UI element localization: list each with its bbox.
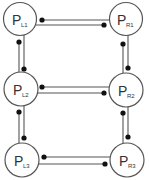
node-p-r1: P R1 xyxy=(110,3,143,36)
node-p-l2: P L2 xyxy=(4,72,38,106)
node-p-r3: P R3 xyxy=(110,143,144,177)
connector-dot xyxy=(125,65,130,70)
node-subscript: R1 xyxy=(126,22,134,28)
link-l1-r1 xyxy=(36,17,110,27)
link-r2-r3 xyxy=(120,107,130,144)
node-subscript: L1 xyxy=(21,22,28,28)
connector-dot xyxy=(101,22,106,27)
connector-dot xyxy=(16,39,21,44)
connector-dot xyxy=(125,134,130,139)
node-p-r2: P R2 xyxy=(109,73,143,107)
node-subscript: L3 xyxy=(23,163,30,169)
connector-dot xyxy=(101,90,106,95)
connector-dot xyxy=(39,17,44,22)
connector-dot xyxy=(102,161,107,166)
link-l3-r3 xyxy=(38,154,111,166)
connector-dot xyxy=(120,41,125,46)
node-label: P xyxy=(117,12,126,28)
process-pair-diagram: P L1 P R1 P L2 P R2 P L3 P R3 xyxy=(0,0,149,180)
node-subscript: R2 xyxy=(127,93,135,99)
link-r1-r2 xyxy=(120,35,130,74)
node-p-l3: P L3 xyxy=(5,143,39,177)
node-label: P xyxy=(12,12,21,28)
node-label: P xyxy=(119,153,128,169)
connector-dot xyxy=(21,66,26,71)
connector-dot xyxy=(39,84,44,89)
node-p-l1: P L1 xyxy=(4,3,37,36)
connector-dot xyxy=(41,154,46,159)
link-l2-r2 xyxy=(37,84,110,95)
link-l2-l3 xyxy=(16,106,26,144)
connector-dot xyxy=(16,109,21,114)
node-label: P xyxy=(14,153,23,169)
connector-dot xyxy=(120,110,125,115)
link-l1-l2 xyxy=(16,35,26,73)
node-label: P xyxy=(13,82,22,98)
node-subscript: L2 xyxy=(22,92,29,98)
node-subscript: R3 xyxy=(128,163,136,169)
node-label: P xyxy=(118,83,127,99)
connector-dot xyxy=(21,135,26,140)
